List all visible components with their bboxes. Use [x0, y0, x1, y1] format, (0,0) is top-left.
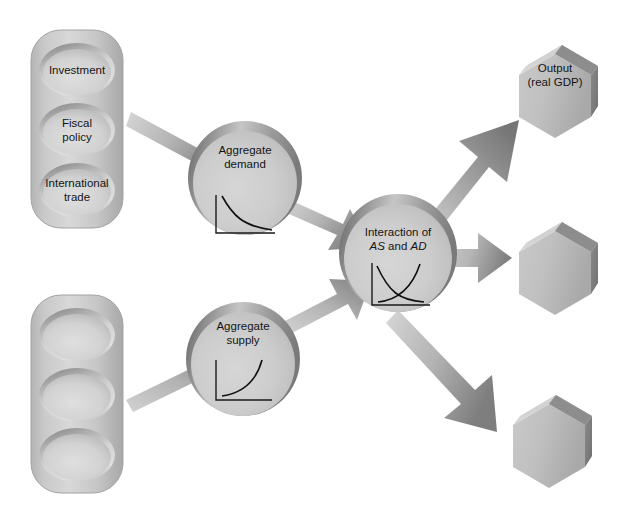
demand-input-ellipse-investment[interactable] — [39, 43, 115, 97]
aggregate-demand-circle[interactable] — [188, 121, 302, 235]
aggregate-supply-circle[interactable] — [186, 302, 300, 416]
demand-input-ellipse-international-trade[interactable] — [39, 163, 115, 217]
supply-input-ellipse-3[interactable] — [39, 428, 115, 482]
diagram-canvas — [0, 0, 620, 512]
interaction-circle[interactable] — [339, 194, 457, 312]
arrow-interaction-to-output-3 — [386, 310, 497, 432]
demand-input-ellipse-fiscal-policy[interactable] — [39, 103, 115, 157]
supply-inputs-cylinder[interactable] — [31, 295, 123, 493]
aggregate-supply-demand-diagram: Investment Fiscal policy International t… — [0, 0, 620, 512]
output-hexagon-2[interactable] — [519, 222, 598, 315]
supply-input-ellipse-2[interactable] — [39, 368, 115, 422]
demand-inputs-cylinder[interactable] — [31, 30, 123, 228]
output-hexagon-3[interactable] — [513, 395, 592, 488]
supply-input-ellipse-1[interactable] — [39, 308, 115, 362]
output-hexagon-real-gdp[interactable] — [519, 45, 598, 138]
